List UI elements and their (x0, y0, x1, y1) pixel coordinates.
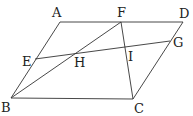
label-B: B (1, 100, 11, 115)
label-H: H (74, 55, 85, 70)
segment-CB (11, 98, 133, 99)
label-C: C (134, 101, 144, 116)
label-D: D (179, 6, 189, 21)
geometry-diagram: A F D G E H I B C (0, 0, 193, 116)
label-A: A (51, 5, 62, 20)
label-G: G (173, 35, 183, 50)
segment-BA (11, 22, 60, 98)
segment-DC (133, 22, 183, 99)
label-I: I (128, 49, 133, 64)
label-F: F (117, 5, 126, 20)
label-E: E (22, 54, 32, 69)
segment-EG (35, 41, 170, 59)
